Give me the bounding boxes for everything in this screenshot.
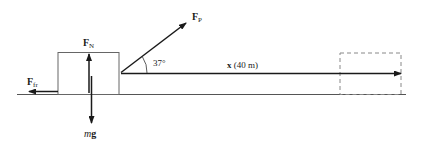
- weight-label: mg: [84, 128, 96, 139]
- pull-force-label: FP: [192, 11, 202, 24]
- force-diagram: FN Ffr FP mg 37° x (40 m): [0, 0, 422, 148]
- displacement-label: x (40 m): [227, 60, 258, 70]
- angle-label: 37°: [153, 58, 166, 68]
- angle-arc: [143, 57, 148, 73]
- normal-force-label: FN: [83, 37, 94, 50]
- friction-force-label: Ffr: [27, 76, 38, 89]
